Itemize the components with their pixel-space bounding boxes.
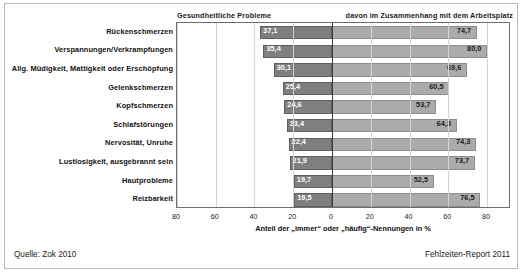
tick-label-left-80: 80 [172, 212, 180, 221]
gridline-right-40 [410, 23, 411, 207]
chart-row: 24,653,7 [177, 98, 509, 117]
bar-value-left: 37,1 [263, 27, 277, 34]
axis-title: Anteil der „immer“ oder „häufig“-Nennung… [176, 224, 510, 233]
bar-value-right: 74,7 [457, 27, 471, 34]
tick-label-left-40: 40 [249, 212, 257, 221]
category-label: Nervosität, Unruhe [105, 139, 173, 146]
tick-label-right-20: 20 [366, 212, 374, 221]
bar-value-right: 73,7 [455, 157, 469, 164]
category-label: Schlafstörungen [113, 121, 173, 128]
category-label: Rückenschmerzen [106, 28, 173, 35]
chart-row: 23,464,3 [177, 117, 509, 136]
category-label: Reizbarkeit [132, 195, 173, 202]
plot-area: 37,174,735,480,030,169,625,460,524,653,7… [176, 22, 510, 208]
column-header-left: Gesundheitliche Probleme [177, 11, 271, 20]
bar-value-left: 24,6 [287, 101, 301, 108]
chart-row: 30,169,6 [177, 61, 509, 80]
bar-value-left: 23,4 [290, 120, 304, 127]
tick-label-left-20: 20 [288, 212, 296, 221]
category-label: Verspannungen/Verkrampfungen [54, 46, 173, 53]
chart-row: 19,752,5 [177, 172, 509, 191]
bar-rows: 37,174,735,480,030,169,625,460,524,653,7… [177, 23, 509, 207]
tick-label-right-40: 40 [405, 212, 413, 221]
report-note: Fehlzeiten-Report 2011 [425, 250, 510, 259]
bar-value-right: 76,5 [460, 194, 474, 201]
zero-axis-line [332, 23, 333, 207]
gridline-right-60 [448, 23, 449, 207]
category-label: Hautprobleme [122, 177, 173, 184]
bar-value-right: 53,7 [416, 101, 430, 108]
bar-right [332, 26, 477, 39]
gridline-left-60 [216, 23, 217, 207]
bar-value-right: 74,3 [456, 138, 470, 145]
gridline-right-20 [371, 23, 372, 207]
chart-row: 25,460,5 [177, 79, 509, 98]
bar-right [332, 138, 476, 151]
bar-value-right: 80,0 [467, 45, 481, 52]
bar-value-right: 52,5 [414, 176, 428, 183]
bar-value-left: 19,5 [297, 194, 311, 201]
bar-value-left: 21,9 [293, 157, 307, 164]
tick-label-right-60: 60 [443, 212, 451, 221]
tick-label-right-80: 80 [482, 212, 490, 221]
category-label: Gelenkschmerzen [108, 84, 173, 91]
bar-value-left: 30,1 [277, 64, 291, 71]
chart-row: 35,480,0 [177, 42, 509, 61]
chart-row: 19,576,5 [177, 191, 509, 210]
category-label: Kopfschmerzen [116, 102, 173, 109]
bar-right [332, 156, 475, 169]
tick-label-left-60: 60 [211, 212, 219, 221]
category-label: Lustlosigkeit, ausgebrannt sein [59, 158, 173, 165]
bar-value-right: 60,5 [429, 83, 443, 90]
chart-figure: Gesundheitliche Probleme davon im Zusamm… [0, 0, 522, 276]
column-header-right: davon im Zusammenhang mit dem Arbeitspla… [346, 11, 513, 20]
bar-value-left: 35,4 [266, 45, 280, 52]
chart-row: 21,973,7 [177, 154, 509, 173]
gridline-left-20 [293, 23, 294, 207]
chart-row: 37,174,7 [177, 24, 509, 43]
gridline-right-80 [487, 23, 488, 207]
source-note: Quelle: Zok 2010 [14, 250, 76, 259]
bar-right [332, 193, 480, 206]
chart-row: 22,474,3 [177, 135, 509, 154]
category-label: Allg. Müdigkeit, Mattigkeit oder Erschöp… [12, 65, 173, 72]
bar-value-left: 19,7 [297, 176, 311, 183]
tick-label-right-0: 0 [329, 212, 333, 221]
gridline-left-80 [177, 23, 178, 207]
gridline-left-40 [254, 23, 255, 207]
